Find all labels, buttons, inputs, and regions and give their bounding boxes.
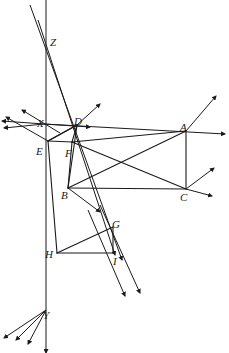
vanishing-point-label-y: Y xyxy=(43,310,49,321)
edge-E-H-vertical xyxy=(48,141,57,253)
ray-C-upright xyxy=(186,168,214,189)
perspective-diagram: ABCDEFGHIXYZ xyxy=(0,0,229,353)
edge-E-F xyxy=(48,141,72,142)
edge-B-C xyxy=(68,188,186,189)
ray-C-right xyxy=(186,189,212,196)
edge-F-A xyxy=(72,131,186,142)
ray-down-2 xyxy=(100,205,140,293)
point-label-c: C xyxy=(180,192,187,203)
point-label-h: H xyxy=(45,249,53,260)
ray-Y-downleft-2 xyxy=(16,310,46,340)
geometry-canvas xyxy=(0,0,229,353)
ray-Z-down-3 xyxy=(38,20,115,255)
point-label-e: E xyxy=(36,146,43,157)
ray-A-upright xyxy=(186,96,216,131)
point-label-f: F xyxy=(65,148,72,159)
point-label-a: A xyxy=(180,122,187,133)
rays-layer xyxy=(2,0,225,353)
ray-Y-downleft-1 xyxy=(4,310,46,338)
point-label-i: I xyxy=(113,256,117,267)
ray-X-to-D xyxy=(44,124,90,127)
point-label-d: D xyxy=(74,116,82,127)
vanishing-point-label-z: Z xyxy=(50,37,56,48)
vanishing-point-label-x: X xyxy=(37,118,44,129)
edge-F-C-diag xyxy=(72,142,186,189)
point-label-b: B xyxy=(61,190,68,201)
ray-B-downright xyxy=(68,188,100,212)
point-label-g: G xyxy=(112,219,120,230)
